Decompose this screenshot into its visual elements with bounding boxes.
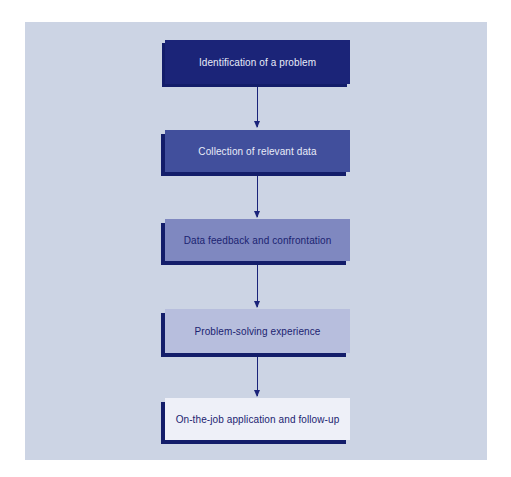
step-collection: Collection of relevant data <box>165 130 350 172</box>
step-label: Data feedback and confrontation <box>184 235 332 246</box>
step-label: Identification of a problem <box>199 57 316 68</box>
step-label: On-the-job application and follow-up <box>176 414 340 425</box>
step-label: Problem-solving experience <box>195 326 321 337</box>
step-label: Collection of relevant data <box>198 146 316 157</box>
arrow-down-icon <box>257 357 258 396</box>
step-problem-solving: Problem-solving experience <box>165 309 350 353</box>
step-feedback: Data feedback and confrontation <box>165 219 350 261</box>
step-identification: Identification of a problem <box>165 40 350 84</box>
arrow-down-icon <box>257 176 258 217</box>
arrow-down-icon <box>257 87 258 127</box>
step-application: On-the-job application and follow-up <box>165 398 350 440</box>
arrow-down-icon <box>257 265 258 307</box>
